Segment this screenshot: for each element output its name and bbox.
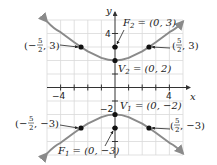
vertex-v1-label: V1 = (0, −2) bbox=[120, 100, 182, 113]
y-axis-label: y bbox=[105, 5, 112, 16]
focus-f2-point bbox=[112, 44, 117, 49]
svg-text:(−: (− bbox=[15, 118, 27, 129]
svg-text:, −3): , −3) bbox=[180, 120, 205, 131]
svg-text:V1 = (0, −2): V1 = (0, −2) bbox=[120, 100, 182, 113]
svg-text:(−: (− bbox=[24, 40, 36, 51]
svg-text:5: 5 bbox=[29, 115, 33, 123]
point-label-neg52-neg3: (− 5 2 , −3) bbox=[15, 115, 59, 132]
vertex-v1-point bbox=[112, 112, 117, 117]
y-tick-label-4: 4 bbox=[105, 29, 111, 39]
hyperbola-diagram: −4 4 4 −2 x y F2 = (0, 3) V2 = (0, 2) V1 bbox=[0, 0, 217, 165]
point-label-neg52-3: (− 5 2 , 3) bbox=[24, 37, 60, 54]
point-52-neg3 bbox=[146, 125, 151, 130]
svg-text:2: 2 bbox=[177, 46, 181, 54]
svg-text:, −3): , −3) bbox=[34, 118, 59, 129]
svg-text:5: 5 bbox=[38, 37, 42, 45]
svg-text:F1 = (0, −3): F1 = (0, −3) bbox=[57, 145, 120, 158]
focus-f1-point bbox=[112, 125, 117, 130]
vertex-v2-point bbox=[112, 58, 117, 63]
svg-text:, 3): , 3) bbox=[182, 40, 199, 51]
svg-text:2: 2 bbox=[29, 124, 33, 132]
svg-text:2: 2 bbox=[38, 46, 42, 54]
point-52-3 bbox=[146, 44, 151, 49]
svg-text:5: 5 bbox=[175, 117, 179, 125]
svg-text:2: 2 bbox=[175, 126, 179, 134]
point-label-52-3: ( 5 2 , 3) bbox=[172, 37, 199, 54]
svg-text:F2 = (0, 3): F2 = (0, 3) bbox=[122, 17, 176, 30]
svg-text:(: ( bbox=[170, 120, 174, 131]
point-neg52-neg3 bbox=[78, 125, 83, 130]
focus-f1-label: F1 = (0, −3) bbox=[57, 145, 120, 158]
x-axis-label: x bbox=[190, 91, 196, 102]
point-neg52-3 bbox=[78, 44, 83, 49]
svg-text:5: 5 bbox=[177, 37, 181, 45]
svg-text:(: ( bbox=[172, 40, 176, 51]
point-label-52-neg3: ( 5 2 , −3) bbox=[170, 117, 205, 134]
x-tick-label-neg4: −4 bbox=[52, 91, 66, 101]
y-tick-label-neg2: −2 bbox=[100, 104, 113, 114]
focus-f2-label: F2 = (0, 3) bbox=[122, 17, 176, 30]
svg-text:, 3): , 3) bbox=[43, 40, 60, 51]
